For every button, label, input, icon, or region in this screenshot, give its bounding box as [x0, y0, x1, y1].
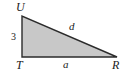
vertex-label-u: U: [16, 1, 25, 13]
side-length-label-3: 3: [11, 32, 16, 42]
vertex-label-t: T: [16, 59, 23, 71]
geometry-figure: U T R d a 3: [0, 0, 131, 80]
side-label-bottom-a: a: [63, 59, 69, 70]
vertex-label-r: R: [112, 59, 119, 71]
side-label-hypotenuse-d: d: [69, 21, 75, 32]
